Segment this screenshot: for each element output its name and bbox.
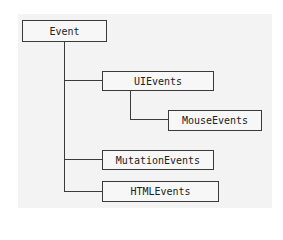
connector-htmlevents [64, 191, 102, 192]
node-htmlevents-label: HTMLEvents [130, 186, 190, 197]
node-event: Event [22, 20, 107, 42]
connector-uievents [64, 80, 102, 81]
node-htmlevents: HTMLEvents [102, 181, 219, 202]
node-uievents-label: UIEvents [134, 76, 182, 87]
node-mouseevents-label: MouseEvents [182, 115, 248, 126]
node-mouseevents: MouseEvents [168, 110, 262, 131]
trunk-line [64, 41, 65, 192]
connector-mutationevents [64, 159, 102, 160]
node-mutationevents: MutationEvents [102, 150, 214, 170]
node-event-label: Event [49, 26, 79, 37]
node-uievents: UIEvents [102, 71, 214, 91]
connector-mouseevents [130, 119, 168, 120]
uievents-child-trunk [130, 90, 131, 120]
node-mutationevents-label: MutationEvents [116, 155, 200, 166]
